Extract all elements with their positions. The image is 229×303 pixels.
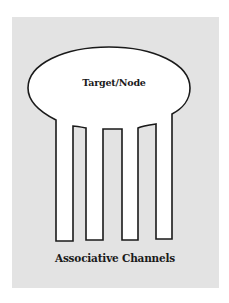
channels-caption: Associative Channels — [30, 252, 200, 264]
node-label: Target/Node — [59, 77, 169, 88]
